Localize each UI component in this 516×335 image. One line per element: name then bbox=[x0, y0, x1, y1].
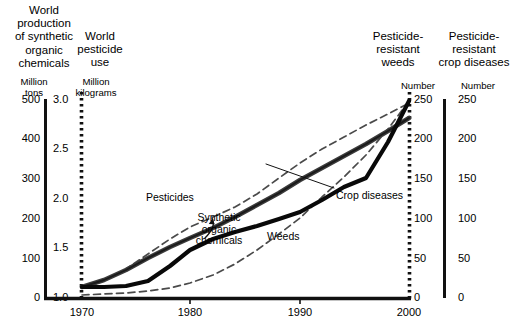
series-line-synthetic-organic-chemicals bbox=[82, 118, 409, 287]
plot-area bbox=[0, 0, 516, 335]
chart-figure: World production of synthetic organic ch… bbox=[0, 0, 516, 335]
series-line-synthetic-organic-chemicals-core bbox=[82, 118, 409, 287]
series-label-weeds: Weeds bbox=[267, 231, 300, 243]
series-label-synthetic-organic-chemicals: Synthetic organic chemicals bbox=[183, 212, 255, 247]
series-label-pesticides: Pesticides bbox=[146, 192, 194, 204]
series-label-crop-diseases: Crop diseases bbox=[336, 190, 403, 202]
